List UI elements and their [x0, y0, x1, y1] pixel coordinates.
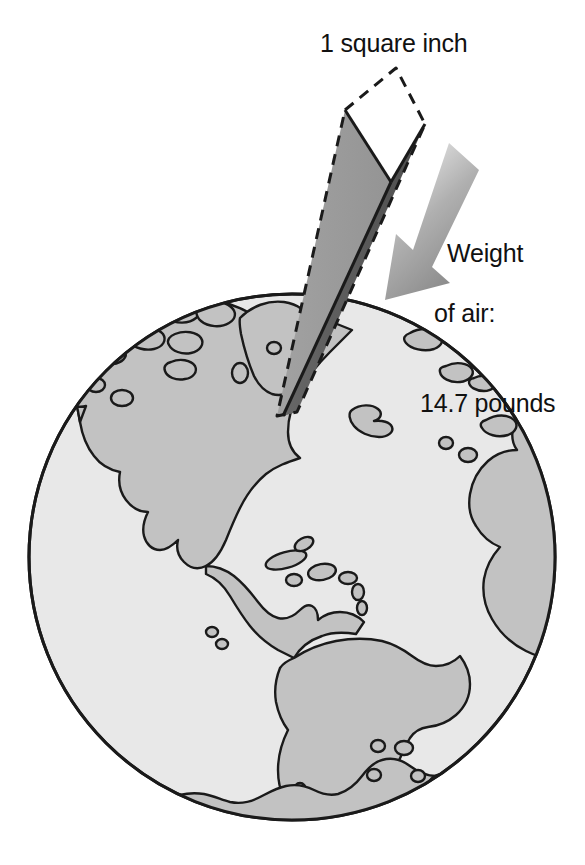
landmass-puerto-rico	[339, 572, 357, 584]
label-weight-of-air: Weight of air: 14.7 pounds	[420, 208, 555, 478]
landmass-antarctic-isle-1	[395, 741, 413, 755]
landmass-galapagos-2	[216, 639, 228, 649]
landmass-jamaica	[286, 574, 302, 586]
label-one-square-inch: 1 square inch	[320, 28, 468, 58]
landmass-antarctic-isle-3	[367, 769, 381, 781]
landmass-arctic-island-7	[164, 360, 195, 380]
landmass-small-isle-d	[267, 342, 281, 354]
label-weight-line-2: of air:	[420, 298, 555, 328]
label-weight-line-3: 14.7 pounds	[420, 388, 555, 418]
landmass-antarctic-isle-2	[371, 740, 385, 752]
landmass-tierra-del-fuego	[311, 824, 341, 843]
landmass-arctic-island-1	[108, 294, 162, 325]
landmass-antarctic-isle-4	[411, 770, 425, 782]
landmass-falkland	[355, 812, 377, 828]
landmass-arctic-island-4	[77, 310, 111, 332]
landmass-small-isle-b	[111, 390, 133, 406]
landmass-arctic-island-8	[93, 344, 126, 364]
landmass-arctic-island-6	[168, 332, 202, 354]
landmass-lesser-antilles-2	[357, 601, 367, 615]
landmass-small-isle-c	[232, 363, 248, 383]
landmass-lesser-antilles-1	[352, 584, 364, 600]
label-weight-line-1: Weight	[447, 239, 523, 267]
landmass-antarctic-isle-6	[409, 793, 427, 807]
pressure-diagram-figure: 1 square inch Weight of air: 14.7 pounds	[0, 0, 585, 865]
landmass-galapagos-1	[206, 627, 218, 637]
